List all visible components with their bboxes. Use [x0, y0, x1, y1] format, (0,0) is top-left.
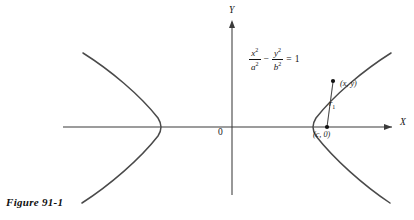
equation-term1-num-exponent: 2 — [255, 47, 258, 53]
equation-term2-denominator: b2 — [272, 59, 284, 72]
figure-container: Y X 0 (x, y) (c, 0) r1 x2 a2 − y2 b2 = 1… — [0, 0, 414, 220]
figure-caption: Figure 91-1 — [6, 196, 63, 208]
equation-term2-den-exponent: 2 — [278, 61, 281, 67]
equation-equals-sign: = — [285, 54, 292, 64]
equation-operator: − — [263, 54, 270, 64]
equation-term2-num-exponent: 2 — [278, 47, 281, 53]
hyperbola-plot — [0, 0, 414, 220]
hyperbola-equation: x2 a2 − y2 b2 = 1 — [249, 47, 299, 72]
equation-term1-denominator: a2 — [249, 59, 261, 72]
y-axis-label: Y — [229, 6, 234, 16]
curve-point-marker — [331, 79, 335, 83]
equation-term1-den-exponent: 2 — [256, 61, 259, 67]
equation-right-hand-side: 1 — [295, 54, 300, 64]
equation-fraction-2: y2 b2 — [272, 47, 284, 72]
x-axis-label: X — [400, 118, 406, 128]
x-axis-arrowhead — [384, 124, 392, 130]
y-axis-arrowhead — [229, 20, 235, 28]
equation-term2-numerator: y2 — [272, 47, 283, 59]
equation-fraction-1: x2 a2 — [249, 47, 261, 72]
equation-term1-numerator: x2 — [249, 47, 260, 59]
hyperbola-left-branch — [82, 53, 161, 203]
origin-label: 0 — [218, 128, 223, 138]
hyperbola-right-branch — [313, 53, 391, 203]
focal-radius-label: r1 — [329, 99, 335, 110]
focal-radius-subscript: 1 — [332, 104, 335, 110]
focus-point-marker — [325, 125, 329, 129]
curve-point-label: (x, y) — [340, 80, 357, 88]
focus-point-label: (c, 0) — [313, 131, 330, 139]
